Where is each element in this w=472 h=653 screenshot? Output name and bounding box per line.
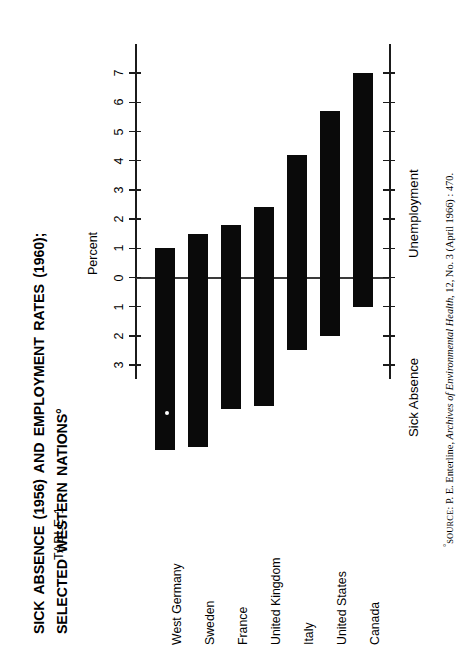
axis-tick <box>129 335 141 337</box>
axis-tick-label: 1 <box>112 296 126 318</box>
bar <box>353 73 373 307</box>
category-label: United Kingdom <box>269 558 283 646</box>
axis-tick-right <box>383 72 395 74</box>
bar <box>188 234 208 447</box>
bar <box>287 155 307 351</box>
section-label-sick-absence: Sick Absence <box>406 358 421 437</box>
category-label: Sweden <box>203 601 217 645</box>
axis-tick-label: 0 <box>112 267 126 289</box>
print-artifact-speck <box>165 411 169 415</box>
axis-tick-right <box>383 335 395 337</box>
axis-tick-right <box>383 218 395 220</box>
source-note-author: : P. E. Enterline, <box>444 439 455 509</box>
axis-tick-right <box>383 131 395 133</box>
axis-tick <box>129 131 141 133</box>
source-note: °SOURCE: P. E. Enterline, Archives of En… <box>442 173 455 547</box>
bar <box>221 225 241 409</box>
category-label: West Germany <box>170 563 184 645</box>
category-label: United States <box>335 571 349 645</box>
axis-tick <box>129 102 141 104</box>
axis-tick <box>129 189 141 191</box>
source-note-prefix: SOURCE <box>446 510 455 544</box>
axis-tick-right <box>383 102 395 104</box>
axis-unit-label: Percent <box>86 232 100 275</box>
source-note-citation: , 12, No. 3 (April 1966) : 470. <box>444 173 455 298</box>
source-note-marker: ° <box>442 544 451 547</box>
category-axis-line <box>389 44 391 379</box>
axis-tick-right <box>383 277 395 279</box>
category-label: Italy <box>302 622 316 645</box>
axis-tick-right <box>383 306 395 308</box>
axis-tick-label: 4 <box>112 150 126 172</box>
axis-tick-right <box>383 189 395 191</box>
axis-tick <box>129 218 141 220</box>
axis-tick-label: 1 <box>112 237 126 259</box>
axis-tick-label: 3 <box>112 354 126 376</box>
axis-tick-label: 6 <box>112 91 126 113</box>
axis-tick-right <box>383 364 395 366</box>
value-axis-line <box>135 44 137 379</box>
chart-plot-area: Percent 76543210123 West GermanySwedenFr… <box>0 0 472 653</box>
bar <box>320 111 340 336</box>
axis-tick-label: 3 <box>112 179 126 201</box>
bar <box>254 207 274 406</box>
bar <box>155 248 175 449</box>
axis-tick-label: 5 <box>112 121 126 143</box>
axis-tick-right <box>383 248 395 250</box>
axis-tick-label: 7 <box>112 62 126 84</box>
axis-tick <box>129 160 141 162</box>
axis-tick <box>129 277 141 279</box>
axis-tick-label: 2 <box>112 325 126 347</box>
axis-tick <box>129 248 141 250</box>
category-label: France <box>236 607 250 645</box>
source-note-journal: Archives of Environmental Health <box>444 298 455 440</box>
axis-tick <box>129 364 141 366</box>
axis-tick <box>129 72 141 74</box>
section-label-unemployment: Unemployment <box>406 169 421 258</box>
axis-tick <box>129 306 141 308</box>
category-label: Canada <box>368 602 382 645</box>
axis-tick-label: 2 <box>112 208 126 230</box>
axis-tick-right <box>383 160 395 162</box>
